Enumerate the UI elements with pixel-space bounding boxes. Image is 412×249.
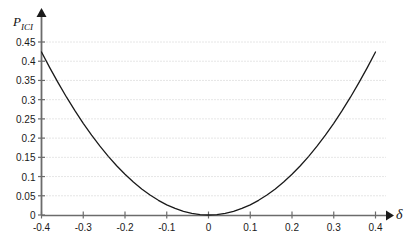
x-axis-tick-label: -0.4 xyxy=(33,222,50,233)
x-axis-tick-label: -0.3 xyxy=(75,222,92,233)
y-axis-tick-label: 0 xyxy=(30,210,36,221)
gridlines xyxy=(44,42,387,196)
y-axis-label-subscript: ICI xyxy=(21,22,33,32)
x-axis-tick-label: -0.2 xyxy=(116,222,133,233)
x-axis-tick-label: 0.4 xyxy=(369,222,383,233)
data-curve xyxy=(42,52,376,215)
y-axis-tick-label: 0.45 xyxy=(16,37,35,48)
y-axis-tick-label: 0.3 xyxy=(22,94,36,105)
y-axis-tick-label: 0.15 xyxy=(16,152,35,163)
y-axis-tick-label: 0.4 xyxy=(22,56,36,67)
x-axis-label: δ xyxy=(396,207,403,223)
y-axis-tick-label: 0.25 xyxy=(16,113,35,124)
y-axis-tick-label: 0.35 xyxy=(16,75,35,86)
x-axis-tick-label: 0.3 xyxy=(327,222,341,233)
x-axis-tick-label: 0.2 xyxy=(285,222,299,233)
x-axis-tick-label: -0.1 xyxy=(158,222,175,233)
y-axis-arrowhead xyxy=(37,8,47,17)
y-axis-tick-label: 0.1 xyxy=(22,171,36,182)
y-axis-tick-label: 0.05 xyxy=(16,190,35,201)
plot-area xyxy=(0,0,412,249)
y-axis-label-main: P xyxy=(13,14,21,29)
y-axis-tick-label: 0.2 xyxy=(22,133,36,144)
y-axis-label: PICI xyxy=(13,14,33,32)
chart-figure: PICI δ 00.050.10.150.20.250.30.350.40.45… xyxy=(0,0,412,249)
x-axis-tick-label: 0 xyxy=(206,222,212,233)
x-axis-tick-label: 0.1 xyxy=(243,222,257,233)
x-axis-arrowhead xyxy=(386,211,394,221)
